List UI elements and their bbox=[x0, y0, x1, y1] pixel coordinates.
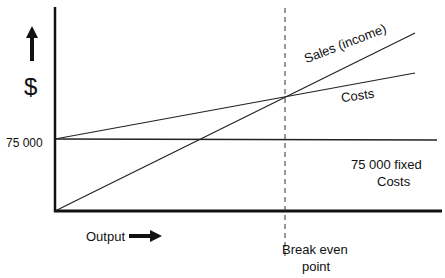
up-arrow-icon bbox=[26, 26, 38, 61]
x-axis-label: Output bbox=[86, 230, 125, 243]
fixed-costs-label-2: Costs bbox=[377, 175, 410, 188]
break-even-label-1: Break even bbox=[282, 243, 348, 256]
y-tick-label: 75 000 bbox=[6, 137, 43, 149]
break-even-label-2: point bbox=[302, 260, 330, 273]
right-arrow-icon bbox=[129, 230, 162, 242]
break-even-chart bbox=[0, 0, 445, 278]
y-axis-symbol: $ bbox=[24, 75, 37, 99]
fixed-costs-label-1: 75 000 fixed bbox=[351, 158, 422, 171]
fixed-costs-line bbox=[55, 139, 437, 140]
costs-line bbox=[55, 73, 415, 139]
sales-line bbox=[55, 33, 415, 211]
